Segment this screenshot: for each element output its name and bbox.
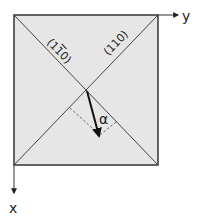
x-axis-label: x <box>9 200 17 216</box>
y-axis-label: y <box>182 8 190 24</box>
angle-alpha-label: α <box>99 111 108 127</box>
crystal-orientation-diagram: y x (110) (110) α <box>0 0 201 221</box>
